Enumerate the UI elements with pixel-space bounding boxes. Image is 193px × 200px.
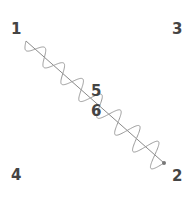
wave-diagram bbox=[0, 0, 193, 200]
label-5: 5 bbox=[91, 84, 101, 99]
label-3: 3 bbox=[172, 22, 182, 37]
label-1: 1 bbox=[11, 22, 21, 37]
label-6: 6 bbox=[91, 104, 101, 119]
label-4: 4 bbox=[11, 168, 21, 183]
endpoint-dot bbox=[162, 161, 166, 165]
label-2: 2 bbox=[172, 169, 182, 184]
